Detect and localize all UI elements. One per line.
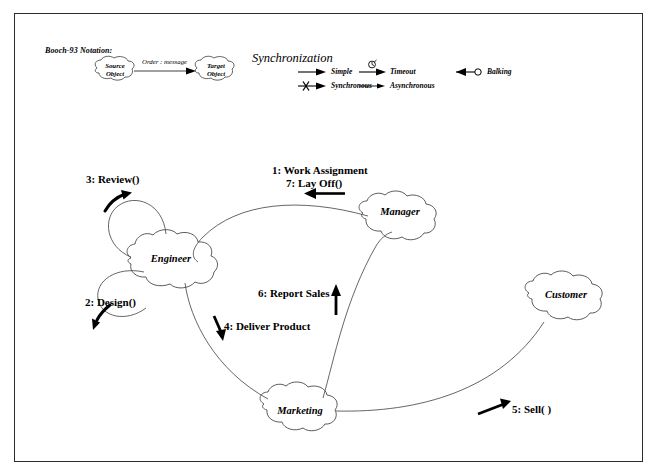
legend-target-object-label: Target Object xyxy=(201,62,231,78)
sync-legend-item-asynchronous: Asynchronous xyxy=(390,82,435,90)
message-label-6-report-sales: 6: Report Sales xyxy=(258,287,330,299)
message-label-7-lay-off: 7: Lay Off() xyxy=(286,177,342,189)
sync-legend-heading: Synchronization xyxy=(252,52,333,66)
sync-legend-item-balking: Balking xyxy=(487,68,512,76)
object-label-marketing: Marketing xyxy=(268,405,332,417)
object-label-manager: Manager xyxy=(370,206,430,218)
sync-legend-item-simple: Simple xyxy=(331,68,352,76)
message-label-3-review: 3: Review() xyxy=(86,173,139,185)
sync-legend-item-synchronous: Synchronous xyxy=(331,82,372,90)
legend-target-line2: Object xyxy=(207,70,225,77)
legend-source-object-label: Source Object xyxy=(100,62,130,78)
sync-legend-item-timeout: Timeout xyxy=(390,68,416,76)
legend-source-line1: Source xyxy=(105,62,125,69)
message-label-4-deliver-product: 4: Deliver Product xyxy=(224,320,310,332)
message-label-2-design: 2: Design() xyxy=(85,296,136,308)
legend-target-line1: Target xyxy=(207,62,225,69)
message-label-5-sell: 5: Sell( ) xyxy=(512,403,551,415)
legend-message-label: Order : message xyxy=(142,58,187,65)
legend-source-line2: Object xyxy=(106,70,124,77)
page-border xyxy=(14,13,643,462)
message-label-1-work-assignment: 1: Work Assignment xyxy=(272,164,368,176)
legend-notation-label: Booch-93 Notation: xyxy=(45,47,112,56)
diagram-canvas: Booch-93 Notation: Source Object Target … xyxy=(0,0,657,474)
object-label-customer: Customer xyxy=(535,289,597,301)
object-label-engineer: Engineer xyxy=(141,253,201,265)
